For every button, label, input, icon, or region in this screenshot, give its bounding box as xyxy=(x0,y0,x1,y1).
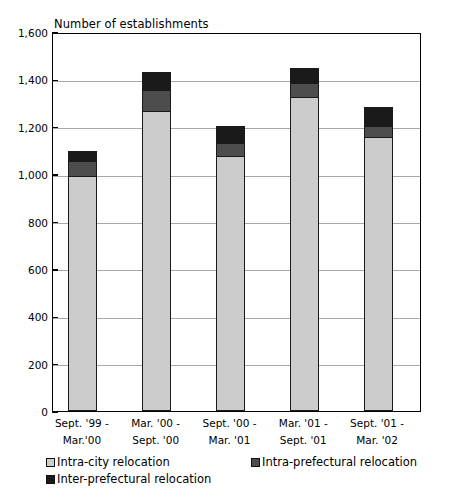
x-axis-tick-label-line: Mar. '00 - xyxy=(131,417,180,429)
x-axis-tick-label-line: Mar.'00 xyxy=(45,432,119,449)
bar-group[interactable] xyxy=(68,32,97,411)
legend-item[interactable]: Intra-prefectural relocation xyxy=(251,455,417,469)
x-axis-tick-label: Sept. '01 -Mar. '02 xyxy=(340,415,414,449)
bar-segment[interactable] xyxy=(364,137,393,411)
bar-group[interactable] xyxy=(216,32,245,411)
y-axis-tick-mark xyxy=(52,174,58,175)
y-axis-tick-mark xyxy=(52,222,58,223)
x-axis-tick-label: Sept. '00 -Mar. '01 xyxy=(193,415,267,449)
bar-segment[interactable] xyxy=(68,161,97,177)
y-axis-tick-label: 200 xyxy=(2,360,48,370)
bar-group[interactable] xyxy=(290,32,319,411)
y-axis-tick-label: 600 xyxy=(2,265,48,275)
legend-item[interactable]: Inter-prefectural relocation xyxy=(46,472,211,486)
bar-segment[interactable] xyxy=(68,176,97,411)
y-axis-tick-labels: 02004006008001,0001,2001,4001,600 xyxy=(0,33,48,412)
y-axis-tick-label: 1,000 xyxy=(2,170,48,180)
x-axis-tick-label-line: Mar. '01 - xyxy=(279,417,328,429)
legend-swatch-icon xyxy=(46,475,55,484)
legend-item-label: Intra-city relocation xyxy=(57,455,170,469)
bar-segment[interactable] xyxy=(216,156,245,411)
y-axis-tick-mark xyxy=(52,80,58,81)
bar-segment[interactable] xyxy=(290,68,319,84)
bar-segment[interactable] xyxy=(142,111,171,411)
x-axis-tick-label-line: Sept. '00 - xyxy=(203,417,257,429)
x-axis-tick-label: Sept. '99 -Mar.'00 xyxy=(45,415,119,449)
x-axis-tick-label-line: Mar. '02 xyxy=(340,432,414,449)
bar-segment[interactable] xyxy=(142,72,171,91)
y-axis-tick-mark xyxy=(52,32,58,33)
x-axis-category-labels: Sept. '99 -Mar.'00Mar. '00 -Sept. '00Sep… xyxy=(52,415,421,459)
legend-item-label: Intra-prefectural relocation xyxy=(262,455,417,469)
y-axis-tick-label: 400 xyxy=(2,312,48,322)
bar-group[interactable] xyxy=(364,32,393,411)
bar-segment[interactable] xyxy=(142,90,171,112)
x-axis-tick-label-line: Sept. '00 xyxy=(119,432,193,449)
bar-segment[interactable] xyxy=(290,97,319,411)
y-axis-tick-mark xyxy=(52,411,58,412)
x-axis-tick-label-line: Sept. '01 - xyxy=(350,417,404,429)
bar-group[interactable] xyxy=(142,32,171,411)
x-axis-tick-label: Mar. '01 -Sept. '01 xyxy=(266,415,340,449)
stacked-bar-chart: Number of establishments 02004006008001,… xyxy=(0,0,463,497)
bar-segment[interactable] xyxy=(364,107,393,127)
bars-layer xyxy=(53,34,420,411)
y-axis-tick-label: 1,400 xyxy=(2,75,48,85)
x-axis-tick-label-line: Sept. '99 - xyxy=(55,417,109,429)
y-axis-tick-mark xyxy=(52,269,58,270)
y-axis-tick-label: 0 xyxy=(2,407,48,417)
y-axis-tick-label: 1,200 xyxy=(2,123,48,133)
chart-legend: Intra-city relocationIntra-prefectural r… xyxy=(46,455,446,491)
legend-swatch-icon xyxy=(46,458,55,467)
x-axis-tick-label: Mar. '00 -Sept. '00 xyxy=(119,415,193,449)
y-axis-tick-mark xyxy=(52,317,58,318)
y-axis-tick-mark xyxy=(52,127,58,128)
chart-title: Number of establishments xyxy=(54,17,209,31)
y-axis-tick-label: 1,600 xyxy=(2,28,48,38)
y-axis-tick-label: 800 xyxy=(2,218,48,228)
legend-item-label: Inter-prefectural relocation xyxy=(57,472,211,486)
bar-segment[interactable] xyxy=(216,126,245,144)
legend-swatch-icon xyxy=(251,458,260,467)
y-axis-tick-mark xyxy=(52,364,58,365)
plot-area xyxy=(52,33,421,412)
x-axis-tick-label-line: Sept. '01 xyxy=(266,432,340,449)
legend-item[interactable]: Intra-city relocation xyxy=(46,455,170,469)
x-axis-tick-label-line: Mar. '01 xyxy=(193,432,267,449)
